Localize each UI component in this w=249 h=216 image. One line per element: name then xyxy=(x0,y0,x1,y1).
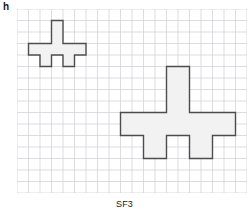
shapes-layer xyxy=(17,9,247,193)
scale-factor-caption: SF3 xyxy=(0,199,249,209)
figure-container: h SF3 xyxy=(0,0,249,216)
large-cross xyxy=(121,67,236,159)
grid-panel xyxy=(17,9,247,193)
small-cross xyxy=(29,21,87,67)
part-label: h xyxy=(3,1,9,12)
